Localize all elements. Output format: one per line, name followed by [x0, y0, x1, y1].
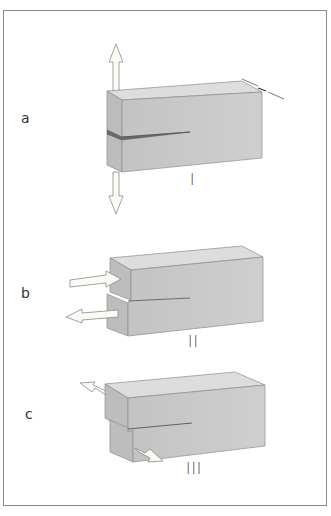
panel-label-a: a [21, 110, 30, 126]
mode-label-iii: III [186, 460, 202, 478]
panel-label-c: c [25, 406, 33, 422]
arrow-up-icon [109, 44, 123, 93]
panel-c-mode-iii [80, 372, 265, 462]
mode-label-i: I [190, 171, 195, 189]
arrow-down-icon [109, 172, 123, 214]
panel-b-mode-ii [66, 246, 263, 336]
fracture-modes-diagram [0, 0, 331, 516]
mode-label-ii: II [188, 333, 199, 351]
panel-a-mode-i [107, 44, 284, 214]
panel-label-b: b [21, 285, 30, 301]
arrow-back-left-icon [80, 382, 106, 395]
